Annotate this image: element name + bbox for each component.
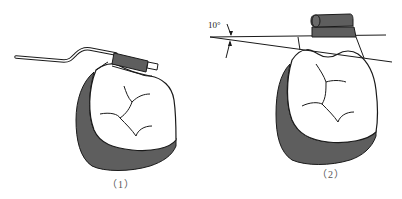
reference-line-horizontal (210, 35, 386, 37)
instrument-1-tip (147, 62, 158, 70)
block-2-leg-left (298, 37, 300, 50)
tooth-1-occlusal-outline (90, 64, 176, 151)
dental-figure: 10° （1） （2） (0, 0, 402, 199)
panel-1 (16, 49, 176, 171)
tooth-2-occlusal-outline (288, 49, 378, 142)
caption-panel-1: （1） (107, 176, 135, 191)
angle-arrowhead-bottom (228, 40, 232, 46)
panel-2 (210, 14, 392, 165)
caption-panel-2: （2） (317, 166, 345, 181)
block-2-base (312, 27, 356, 37)
angle-arrowhead-top (229, 31, 233, 36)
angle-annotation: 10° (208, 20, 221, 30)
block-2-cylinder-end (312, 15, 320, 27)
